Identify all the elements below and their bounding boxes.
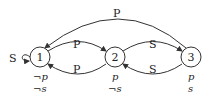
edge-1-1: [22, 55, 30, 61]
node-1-prop-p: ¬p: [33, 71, 48, 82]
state-diagram: P P P S S S 1 ¬p ¬s 2 p ¬s 3 p s: [0, 0, 213, 99]
edge-3-2-label: S: [149, 63, 157, 76]
node-2-prop-s: ¬s: [108, 83, 122, 94]
node-3-prop-p: p: [188, 71, 195, 82]
svg-text:2: 2: [112, 51, 119, 64]
svg-text:3: 3: [188, 51, 195, 64]
edge-2-1-label: P: [73, 63, 81, 76]
edge-3-1-label: P: [113, 7, 121, 20]
edge-1-1-label: S: [9, 52, 17, 65]
node-1: 1 ¬p ¬s: [30, 47, 50, 94]
edge-2-3-label: S: [149, 38, 157, 51]
node-3-prop-s: s: [188, 83, 193, 94]
node-2-prop-p: p: [112, 71, 119, 82]
node-3: 3 p s: [181, 47, 201, 94]
node-2: 2 p ¬s: [105, 47, 125, 94]
svg-text:1: 1: [37, 51, 44, 64]
node-1-prop-s: ¬s: [33, 83, 47, 94]
edge-1-2-label: P: [73, 38, 81, 51]
edge-3-1: [45, 19, 186, 48]
